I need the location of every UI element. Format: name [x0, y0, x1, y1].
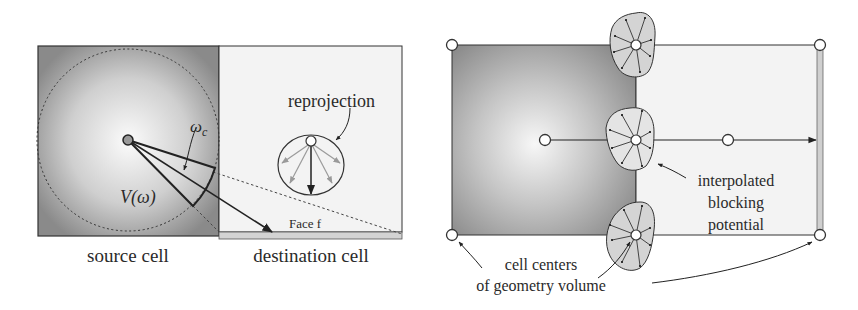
- destination-volume-center: [723, 135, 734, 146]
- source-cell-label: source cell: [87, 245, 169, 266]
- geometry-volume-label: of geometry volume: [476, 277, 606, 295]
- interpolated-label: interpolated: [698, 172, 774, 190]
- cell-center-bottom-left: [447, 230, 458, 241]
- left-panel: ωc V(ω) reprojection Face f source cell …: [37, 46, 402, 266]
- potential-label: potential: [708, 216, 765, 234]
- cell-centers-pointer-right: [652, 242, 812, 283]
- cell-center-top-left: [447, 40, 458, 51]
- source-volume-center: [540, 135, 551, 146]
- visibility-label: V(ω): [120, 187, 156, 208]
- reprojection-label: reprojection: [288, 91, 375, 111]
- destination-face-strip: [817, 48, 823, 233]
- cell-centers-pointer-left: [459, 242, 482, 268]
- cell-centers-label: cell centers: [505, 256, 577, 273]
- right-panel: interpolated blocking potential cell cen…: [447, 12, 826, 295]
- source-center-point: [123, 135, 133, 145]
- destination-cell-label: destination cell: [253, 245, 369, 266]
- face-f-strip: [219, 232, 402, 239]
- cell-center-top-right: [815, 40, 826, 51]
- blocking-label: blocking: [708, 194, 764, 212]
- face-f-label: Face f: [289, 216, 322, 231]
- cell-center-bottom-right: [815, 230, 826, 241]
- diagram-canvas: ωc V(ω) reprojection Face f source cell …: [0, 0, 858, 310]
